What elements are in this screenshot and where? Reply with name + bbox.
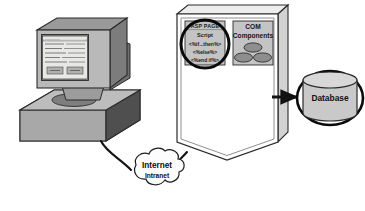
- asp-code-line-3: <%end if%>: [191, 57, 219, 63]
- web-server: ASP PAGE Script <%if...then%> <%else%> <…: [177, 5, 288, 160]
- network-label-internet: Internet: [142, 161, 172, 170]
- database-label: Database: [311, 93, 349, 103]
- com-label-line-1: COM: [245, 23, 261, 30]
- asp-page-panel: ASP PAGE Script <%if...then%> <%else%> <…: [185, 21, 225, 65]
- com-component-oval-3: [254, 53, 272, 62]
- connection-client-to-network: [101, 141, 131, 170]
- com-component-oval-2: [235, 53, 253, 62]
- diagram-canvas: ASP PAGE Script <%if...then%> <%else%> <…: [0, 0, 365, 211]
- com-components-panel: COM Components: [233, 21, 274, 65]
- network-cloud: Internet Intranet: [135, 148, 185, 185]
- asp-code-line-2: <%else%>: [193, 49, 218, 55]
- com-label-line-2: Components: [233, 32, 274, 40]
- asp-script-label: Script: [197, 32, 213, 38]
- com-component-oval-1: [244, 43, 262, 52]
- client-computer: [20, 18, 140, 141]
- asp-code-line-1: <%if...then%>: [189, 41, 222, 47]
- database: Database: [297, 71, 363, 125]
- network-label-intranet: Intranet: [145, 172, 170, 179]
- crt-monitor: [37, 18, 130, 100]
- architecture-diagram: ASP PAGE Script <%if...then%> <%else%> <…: [0, 0, 365, 211]
